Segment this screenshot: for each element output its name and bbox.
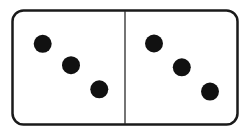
pip-icon — [90, 80, 108, 98]
pip-icon — [34, 35, 52, 53]
domino-tile: Domino tile 3-3 — [0, 0, 251, 129]
pip-icon — [62, 56, 80, 74]
pip-icon — [173, 58, 191, 76]
pip-icon — [145, 35, 163, 53]
pip-icon — [201, 83, 219, 101]
